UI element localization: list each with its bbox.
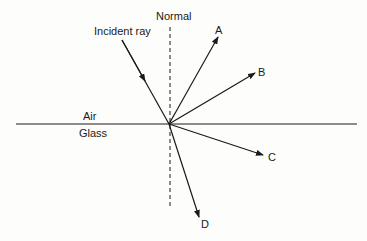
air-label: Air bbox=[83, 111, 96, 122]
ray-b bbox=[169, 73, 255, 124]
ray-c-label: C bbox=[268, 152, 276, 163]
ray-c bbox=[169, 124, 263, 155]
ray-d bbox=[169, 124, 199, 217]
ray-a bbox=[169, 37, 218, 124]
incident-ray bbox=[122, 40, 169, 124]
ray-b-label: B bbox=[258, 67, 265, 78]
normal-label: Normal bbox=[156, 11, 191, 22]
ray-a-label: A bbox=[215, 25, 222, 36]
refraction-diagram bbox=[0, 0, 367, 241]
ray-d-label: D bbox=[201, 219, 209, 230]
glass-label: Glass bbox=[79, 128, 107, 139]
incident-ray-label: Incident ray bbox=[94, 26, 151, 37]
